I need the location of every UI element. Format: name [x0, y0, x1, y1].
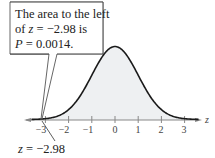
- tick-label: 3: [182, 124, 187, 135]
- tick-label: −2: [59, 124, 70, 135]
- tick-label: 1: [136, 124, 141, 135]
- axis-arrow-left: [24, 118, 31, 122]
- callout-line-1: The area to the left: [15, 7, 110, 21]
- tick-label: 2: [159, 124, 164, 135]
- callout-line-2: of z = −2.98 is: [15, 22, 87, 36]
- callout-pointer-right: [42, 54, 57, 119]
- tick-label: −1: [83, 124, 94, 135]
- tick-label: 0: [113, 124, 118, 135]
- axis-label-z: z: [204, 114, 209, 125]
- callout-pointer-left: [41, 54, 49, 119]
- marker-label: z = −2.98: [17, 142, 65, 156]
- normal-distribution-chart: −3 −2 −1 0 1 2 3 z z = −2.98 The area to…: [0, 0, 215, 158]
- callout-line-3: P = 0.0014.: [14, 37, 73, 51]
